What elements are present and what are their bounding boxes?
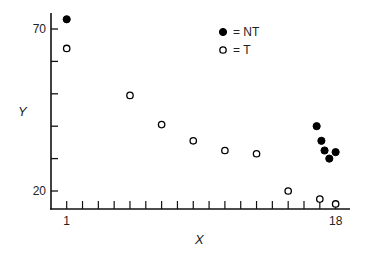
open-point-t [127,92,133,98]
legend-marker-t [220,47,226,53]
filled-point-nt [63,16,70,23]
filled-point-nt [313,123,320,130]
y-tick-label: 70 [33,22,47,36]
legend: = NT= T [219,25,260,57]
open-point-t [190,138,196,144]
y-tick-label: 20 [33,184,47,198]
open-point-t [253,151,259,157]
x-axis-ticks: 118 [63,201,342,228]
x-tick-label: 1 [63,214,70,228]
data-points [63,16,339,207]
open-point-t [222,147,228,153]
y-axis-title: Y [18,104,28,119]
open-point-t [63,45,69,51]
axes [50,13,350,210]
open-point-t [158,121,164,127]
legend-label-nt: = NT [233,25,260,39]
filled-point-nt [318,137,325,144]
open-point-t [285,188,291,194]
filled-point-nt [326,155,333,162]
x-tick-label: 18 [329,214,343,228]
y-axis-ticks: 7020 [33,22,58,198]
legend-label-t: = T [233,43,251,57]
filled-point-nt [321,147,328,154]
legend-marker-nt [219,28,226,35]
open-point-t [317,196,323,202]
scatter-chart: 7020 118 Y X = NT= T [0,0,374,255]
x-axis-title: X [194,232,205,247]
open-point-t [332,201,338,207]
filled-point-nt [332,149,339,156]
